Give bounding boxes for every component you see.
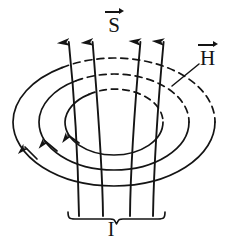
- vector-arrow-icon: [104, 6, 124, 15]
- h-ellipse-inner-front: [65, 94, 163, 155]
- current-symbol: I: [104, 219, 118, 239]
- s-field-line-group: [69, 42, 164, 216]
- h-ellipse-outer-front: [13, 68, 215, 186]
- s-field-line-2: [93, 42, 103, 216]
- poynting-vector-label: S: [104, 6, 124, 36]
- h-ellipse-inner-back-dashed: [89, 89, 163, 122]
- magnetic-field-symbol: H: [197, 48, 218, 69]
- s-field-line-1: [69, 42, 79, 216]
- h-field-ellipse-inner: [65, 89, 163, 155]
- current-label: I: [104, 219, 118, 239]
- poynting-vector-symbol: S: [104, 15, 124, 36]
- magnetic-field-label: H: [197, 39, 218, 69]
- vector-arrow-icon: [197, 39, 218, 48]
- h-ellipse-middle-back-dashed: [76, 74, 189, 122]
- h-direction-arrow-middle: [45, 141, 57, 151]
- h-field-ellipse-group: [13, 58, 215, 186]
- physics-diagram: S H I: [0, 0, 234, 243]
- h-ellipse-middle-front: [39, 81, 189, 170]
- h-direction-arrow-outer: [25, 147, 37, 159]
- h-field-ellipse-outer: [13, 58, 215, 186]
- s-field-line-3: [130, 42, 140, 216]
